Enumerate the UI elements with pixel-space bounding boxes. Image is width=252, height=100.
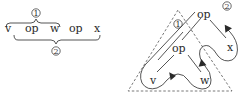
marker-1-label: 1 — [34, 9, 39, 18]
node-leaf-w: w — [200, 74, 210, 87]
marker-2-label: 2 — [54, 47, 59, 56]
node-leaf-x: x — [227, 41, 234, 54]
token-op-2: op — [69, 22, 83, 35]
edge-root-inner — [182, 18, 201, 40]
left-expression: v op w op x 1 2 — [4, 9, 101, 56]
diagram-canvas: v op w op x 1 2 op 2 op 1 v w x — [0, 0, 252, 100]
token-v: v — [4, 22, 12, 35]
arrow-icon-2 — [197, 58, 206, 66]
right-tree: op 2 op 1 v w x — [128, 2, 237, 91]
token-x: x — [94, 22, 101, 35]
token-op-1: op — [25, 22, 39, 35]
edge-root-x — [210, 20, 226, 38]
arrow-icon-3 — [221, 22, 232, 32]
node-leaf-v: v — [149, 74, 157, 87]
edge-inner-v — [157, 55, 174, 72]
edge-inner-w — [188, 55, 201, 72]
root-marker-label: 2 — [225, 2, 230, 11]
node-inner-op: op — [172, 42, 186, 55]
bottom-brace — [14, 35, 100, 44]
node-root-op: op — [197, 8, 211, 21]
